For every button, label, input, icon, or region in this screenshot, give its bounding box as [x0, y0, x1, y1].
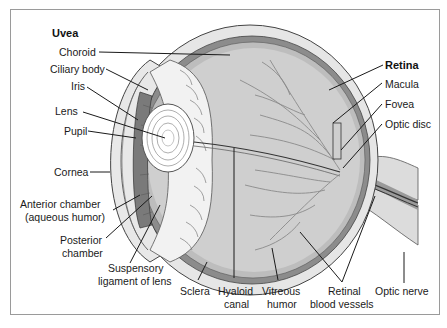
eye-diagram: Uvea Choroid Ciliary body Iris Lens Pupi…: [0, 0, 447, 328]
label-chamber: chamber: [62, 247, 103, 259]
label-choroid: Choroid: [59, 46, 96, 58]
label-ligament-of-lens: ligament of lens: [98, 275, 172, 287]
lens-shape: [142, 104, 194, 172]
label-iris: Iris: [71, 80, 85, 92]
label-uvea: Uvea: [52, 27, 79, 39]
label-humor: humor: [267, 298, 297, 310]
label-pupil: Pupil: [64, 125, 87, 137]
label-retina: Retina: [385, 59, 420, 71]
label-lens: Lens: [55, 105, 78, 117]
label-macula: Macula: [385, 78, 419, 90]
label-ciliary-body: Ciliary body: [50, 63, 106, 75]
label-suspensory: Suspensory: [108, 262, 164, 274]
label-fovea: Fovea: [385, 98, 414, 110]
label-optic-nerve: Optic nerve: [375, 285, 429, 297]
label-blood-vessels: blood vessels: [310, 298, 374, 310]
label-vitreous: Vitreous: [262, 285, 300, 297]
label-posterior: Posterior: [60, 234, 103, 246]
label-anterior-chamber: Anterior chamber: [20, 198, 101, 210]
label-retinal: Retinal: [328, 285, 361, 297]
label-cornea: Cornea: [54, 166, 89, 178]
label-sclera: Sclera: [180, 285, 210, 297]
label-hyaloid: Hyaloid: [218, 285, 253, 297]
label-canal: canal: [224, 298, 249, 310]
label-aqueous-humor: (aqueous humor): [25, 211, 105, 223]
label-optic-disc: Optic disc: [385, 118, 431, 130]
